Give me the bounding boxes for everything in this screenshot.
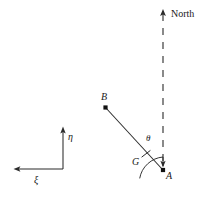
- point-b-label: B: [101, 92, 107, 102]
- point-a-marker: [161, 168, 165, 172]
- geometry-figure: North A B G θ η ξ: [0, 0, 208, 197]
- theta-label: θ: [146, 134, 150, 143]
- north-label: North: [171, 9, 194, 19]
- point-g-label: G: [132, 157, 139, 167]
- xi-axis-label: ξ: [34, 175, 38, 185]
- point-b-marker: [103, 105, 107, 109]
- eta-axis-label: η: [68, 132, 73, 142]
- theta-arc: [140, 157, 163, 178]
- point-a-label: A: [166, 171, 172, 181]
